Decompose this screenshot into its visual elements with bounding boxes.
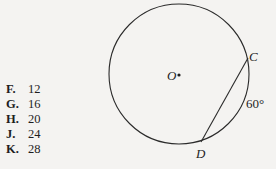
- point-d-label: D: [195, 146, 206, 161]
- point-c-label: C: [249, 49, 258, 64]
- center-label: O: [167, 68, 177, 83]
- circle-diagram: O C D 60°: [0, 0, 276, 169]
- center-point: [177, 73, 180, 76]
- chord-cd: [201, 58, 248, 142]
- arc-measure-label: 60°: [246, 96, 264, 111]
